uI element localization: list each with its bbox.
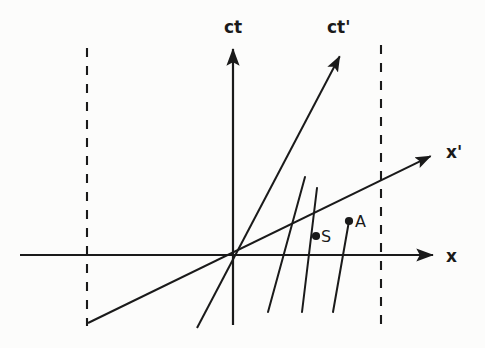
ct-axis-label: ct xyxy=(224,17,242,37)
event-a-label: A xyxy=(355,212,366,231)
worldline-1 xyxy=(268,177,305,312)
event-labels: S A xyxy=(321,212,366,246)
x-prime-axis-line xyxy=(88,156,431,323)
worldline-3 xyxy=(333,221,349,312)
axes xyxy=(20,49,433,328)
worldline-2 xyxy=(302,188,317,312)
event-s-label: S xyxy=(321,227,331,246)
diagram-canvas: ct ct' x x' S A xyxy=(0,0,485,348)
event-a-dot xyxy=(345,217,353,225)
spacetime-diagram-figure: ct ct' x x' S A xyxy=(0,0,485,348)
x-axis-label: x xyxy=(446,246,457,266)
ct-prime-axis-label: ct' xyxy=(327,17,350,37)
event-s-dot xyxy=(312,232,320,240)
x-prime-axis-label: x' xyxy=(446,142,462,162)
axis-labels: ct ct' x x' xyxy=(224,17,462,266)
ct-prime-axis-line xyxy=(197,56,340,328)
worldlines xyxy=(268,177,349,312)
